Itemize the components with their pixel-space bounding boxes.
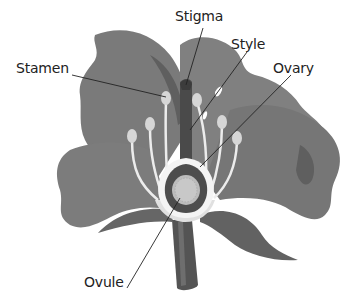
label-ovule: Ovule [84,275,124,289]
flower-diagram: Stamen Stigma Style Ovary Ovule [0,0,348,301]
label-style: Style [231,37,265,51]
style [180,79,192,160]
flower-illustration [0,0,348,301]
leaf-right [200,211,298,260]
label-stigma: Stigma [175,9,223,23]
label-ovary: Ovary [273,61,314,75]
label-stamen: Stamen [16,61,69,75]
